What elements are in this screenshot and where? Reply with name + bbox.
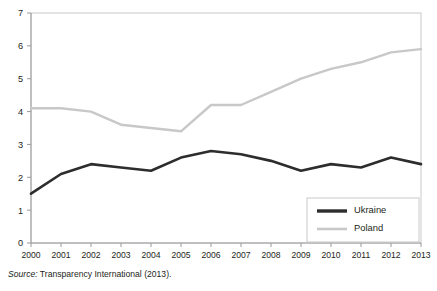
series-layer: [31, 49, 421, 194]
x-tick-label: 2009: [291, 250, 310, 260]
chart-legend: UkrainePoland: [307, 198, 419, 242]
x-tick-label: 2011: [352, 250, 371, 260]
x-tick-label: 2007: [231, 250, 250, 260]
figure-container: 01234567 2000200120022003200420052006200…: [0, 0, 437, 291]
y-tick-label: 2: [18, 173, 23, 183]
x-tick-label: 2002: [81, 250, 100, 260]
x-tick-label: 2006: [201, 250, 220, 260]
chart-area: 01234567 2000200120022003200420052006200…: [0, 0, 437, 262]
legend-label-ukraine: Ukraine: [354, 204, 386, 215]
x-tick-label: 2000: [21, 250, 40, 260]
series-line-ukraine: [31, 151, 421, 194]
x-tick-marks: [31, 243, 421, 247]
y-tick-label: 1: [18, 206, 23, 216]
y-tick-label: 5: [18, 74, 23, 84]
y-tick-label: 7: [18, 8, 23, 18]
y-tick-marks: [27, 13, 31, 243]
x-tick-label: 2013: [411, 250, 430, 260]
x-tick-label: 2005: [171, 250, 190, 260]
x-tick-label: 2012: [381, 250, 400, 260]
x-tick-label: 2001: [51, 250, 70, 260]
source-caption: Source: Transparency International (2013…: [8, 268, 428, 280]
legend-label-poland: Poland: [354, 222, 383, 233]
series-line-poland: [31, 49, 421, 131]
y-tick-label: 3: [18, 140, 23, 150]
x-tick-label: 2008: [261, 250, 280, 260]
y-tick-labels: 01234567: [18, 8, 23, 248]
y-tick-label: 4: [18, 107, 23, 117]
x-tick-label: 2003: [111, 250, 130, 260]
y-tick-label: 0: [18, 238, 23, 248]
line-chart: 01234567 2000200120022003200420052006200…: [0, 0, 437, 262]
x-tick-labels: 2000200120022003200420052006200720082009…: [21, 250, 430, 260]
source-label: Source:: [8, 269, 38, 279]
source-value: Transparency International (2013).: [38, 269, 172, 279]
x-tick-label: 2010: [321, 250, 340, 260]
y-tick-label: 6: [18, 41, 23, 51]
x-tick-label: 2004: [141, 250, 160, 260]
